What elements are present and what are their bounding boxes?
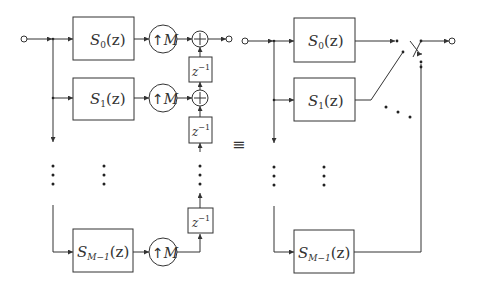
- upsampler-row0: ↑M: [149, 25, 179, 53]
- output-terminal-left: [226, 36, 232, 42]
- output-terminal-right: [449, 38, 455, 44]
- filter-sm1-right: SM−1(z): [294, 230, 354, 273]
- svg-text:↑M: ↑M: [152, 91, 179, 107]
- filter-s0-left: S0(z): [73, 17, 134, 60]
- filter-s1-left: S1(z): [73, 78, 134, 120]
- svg-text:S0(z): S0(z): [308, 32, 344, 51]
- upsampler-rowM1: ↑M: [149, 238, 179, 266]
- polyphase-diagram: S0(z) ↑M z−1 S1(z) ↑: [0, 0, 477, 289]
- svg-text:↑M: ↑M: [152, 245, 179, 261]
- delay-3: z−1: [188, 208, 213, 233]
- filter-s0-right: S0(z): [294, 18, 355, 62]
- adder-row1: [192, 90, 208, 106]
- filter-s1-right: S1(z): [294, 78, 355, 121]
- ellipsis-diagonal: [385, 106, 412, 119]
- filter-sm1-left: SM−1(z): [73, 229, 133, 272]
- equivalence-sign: ≡: [232, 135, 245, 154]
- delay-1: z−1: [189, 57, 212, 82]
- commutator-switch: [410, 40, 422, 57]
- svg-text:S1(z): S1(z): [90, 90, 126, 109]
- input-terminal-left: [21, 36, 27, 42]
- right-structure: S0(z) S1(z) SM−1(z): [242, 18, 455, 273]
- upsampler-row1: ↑M: [149, 84, 179, 112]
- ellipsis-left: [52, 165, 202, 186]
- svg-text:↑M: ↑M: [152, 32, 179, 48]
- left-structure: S0(z) ↑M z−1 S1(z) ↑: [21, 17, 232, 272]
- svg-text:S0(z): S0(z): [90, 31, 126, 50]
- adder-row0: [192, 31, 208, 47]
- ellipsis-right: [273, 166, 326, 187]
- input-terminal-right: [242, 38, 248, 44]
- delay-2: z−1: [189, 117, 212, 143]
- svg-text:S1(z): S1(z): [308, 92, 344, 111]
